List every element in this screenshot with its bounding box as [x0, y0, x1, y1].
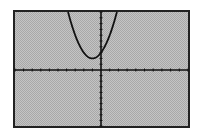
axes	[15, 12, 188, 126]
curve-y1	[68, 12, 117, 58]
parabola-curve	[68, 12, 117, 58]
graph-plot	[0, 0, 199, 140]
